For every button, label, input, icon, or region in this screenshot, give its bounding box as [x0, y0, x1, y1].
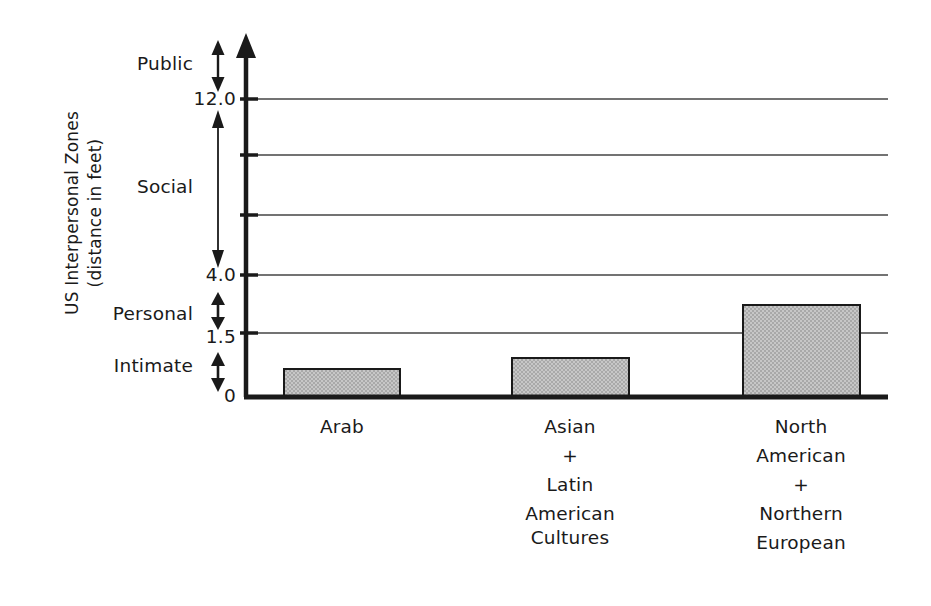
zone-label-social: Social [33, 176, 193, 197]
y-tick-label-1-5: 1.5 [176, 326, 236, 347]
bar-chart: US Interpersonal Zones (distance in feet… [0, 0, 931, 606]
x-axis-title: Cultures [490, 527, 650, 548]
zone-range-arrow-personal [206, 292, 230, 330]
y-axis-ticks [240, 99, 258, 333]
x-tick-label-north-american-northern-european: North American + Northern European [721, 412, 881, 557]
bar-arab [283, 368, 401, 398]
y-tick-label-12: 12.0 [176, 88, 236, 109]
bar-asian-latin-american [511, 357, 630, 398]
x-tick-label-asian-latin-american: Asian + Latin American [490, 412, 650, 528]
zone-label-intimate: Intimate [33, 355, 193, 376]
zone-label-personal: Personal [33, 303, 193, 324]
y-tick-label-0: 0 [176, 385, 236, 406]
zone-range-arrow-public [206, 40, 230, 92]
y-axis-line [236, 33, 256, 397]
y-tick-label-4: 4.0 [176, 264, 236, 285]
bar-north-american-northern-european [742, 304, 861, 398]
x-tick-label-arab: Arab [262, 412, 422, 441]
zone-label-public: Public [33, 53, 193, 74]
zone-label-column: Public Social Personal Intimate [0, 0, 193, 606]
zone-range-arrow-social [206, 110, 230, 268]
gridlines [246, 99, 888, 333]
